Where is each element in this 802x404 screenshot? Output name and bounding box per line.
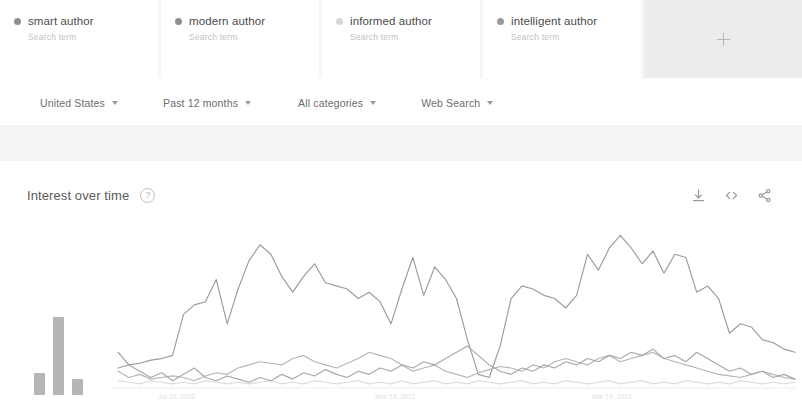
embed-code-icon[interactable]	[724, 188, 739, 203]
search-term-card[interactable]: smart author Search term	[0, 0, 158, 78]
search-term-type: Search term	[189, 32, 319, 42]
search-term-header: intelligent author	[497, 15, 641, 27]
search-term-type: Search term	[350, 32, 480, 42]
interest-over-time-chart[interactable]	[0, 221, 802, 404]
search-term-type: Search term	[511, 32, 641, 42]
x-axis-tick-label: Jul 10, 2022	[159, 393, 196, 400]
series-color-dot	[336, 18, 343, 25]
filter-search-type[interactable]: Web Search	[421, 97, 493, 109]
search-term-card[interactable]: intelligent author Search term	[483, 0, 641, 78]
chevron-down-icon	[245, 101, 251, 105]
chart-svg	[0, 221, 802, 404]
add-comparison-button[interactable]	[644, 0, 802, 78]
filter-category[interactable]: All categories	[298, 97, 376, 109]
chart-actions	[691, 188, 772, 203]
filter-location-label: United States	[40, 97, 105, 109]
search-term-card[interactable]: modern author Search term	[161, 0, 319, 78]
search-term-label: modern author	[189, 15, 265, 27]
filter-time-range-label: Past 12 months	[163, 97, 238, 109]
search-term-label: informed author	[350, 15, 432, 27]
filter-search-type-label: Web Search	[421, 97, 480, 109]
download-icon[interactable]	[691, 188, 706, 203]
search-term-header: smart author	[14, 15, 158, 27]
filter-location[interactable]: United States	[40, 97, 118, 109]
chart-line-smart-author	[118, 235, 795, 377]
chart-line-informed-author	[118, 381, 795, 384]
search-term-header: modern author	[175, 15, 319, 27]
mini-bar	[34, 373, 45, 395]
chevron-down-icon	[370, 101, 376, 105]
filter-bar: United States Past 12 months All categor…	[0, 81, 802, 125]
search-term-label: smart author	[28, 15, 94, 27]
series-color-dot	[497, 18, 504, 25]
chart-x-axis: Jul 10, 2022Nov 13, 2022Mar 19, 2023	[0, 393, 802, 404]
chart-title: Interest over time	[27, 188, 129, 203]
search-term-header: informed author	[336, 15, 480, 27]
search-term-card[interactable]: informed author Search term	[322, 0, 480, 78]
x-axis-tick-label: Mar 19, 2023	[592, 393, 632, 400]
share-icon[interactable]	[757, 188, 772, 203]
chart-line-modern-author	[118, 352, 795, 380]
mini-bar	[53, 317, 64, 395]
help-icon[interactable]: ?	[140, 188, 155, 203]
mini-bar-chart-artifact	[34, 315, 83, 395]
chevron-down-icon	[487, 101, 493, 105]
series-color-dot	[175, 18, 182, 25]
search-terms-row: smart author Search term modern author S…	[0, 0, 802, 78]
x-axis-tick-label: Nov 13, 2022	[375, 393, 415, 400]
interest-over-time-card: Interest over time ?	[0, 161, 802, 404]
google-trends-page: smart author Search term modern author S…	[0, 0, 802, 404]
series-color-dot	[14, 18, 21, 25]
filter-category-label: All categories	[298, 97, 363, 109]
filter-time-range[interactable]: Past 12 months	[163, 97, 251, 109]
chevron-down-icon	[112, 101, 118, 105]
chart-header: Interest over time ?	[0, 175, 802, 215]
search-term-type: Search term	[28, 32, 158, 42]
search-term-label: intelligent author	[511, 15, 597, 27]
section-separator	[0, 125, 802, 161]
chart-line-intelligent-author	[118, 346, 795, 382]
plus-icon	[717, 33, 730, 46]
